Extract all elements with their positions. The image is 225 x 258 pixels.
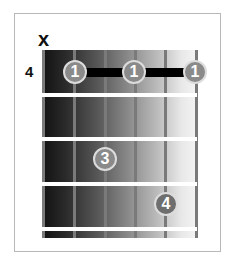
finger-dot: 3 <box>93 147 117 171</box>
finger-dot: 1 <box>122 60 146 84</box>
fret-line-2 <box>42 137 197 141</box>
finger-dot: 1 <box>183 60 207 84</box>
fret-line-1 <box>42 93 197 97</box>
fret-line-4 <box>42 227 197 231</box>
muted-string-marker: x <box>38 28 49 51</box>
finger-dot: 4 <box>154 192 178 216</box>
string-3 <box>104 50 107 238</box>
finger-dot: 1 <box>63 60 87 84</box>
start-fret-number: 4 <box>25 63 33 80</box>
fret-line-3 <box>42 182 197 186</box>
string-1 <box>42 50 45 238</box>
